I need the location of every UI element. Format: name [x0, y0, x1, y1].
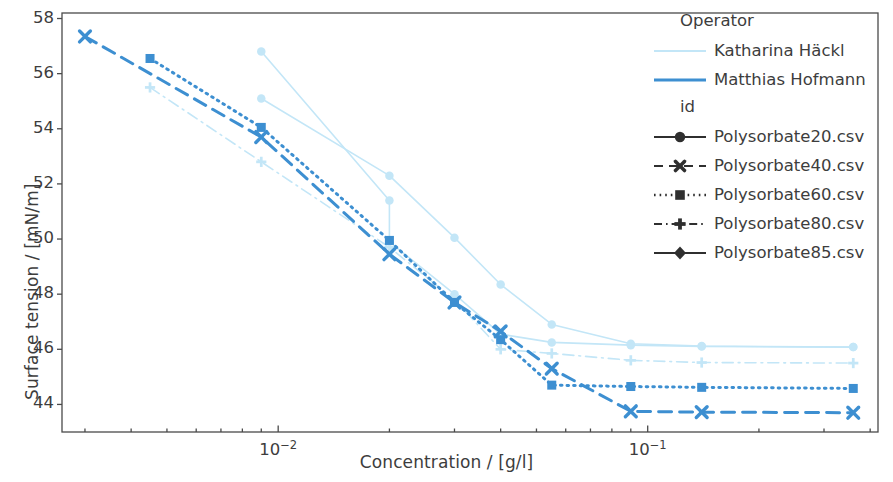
legend-key-polysorbate20: [652, 127, 708, 147]
series-marker-1: [257, 94, 266, 103]
series-marker-2: [697, 357, 707, 367]
series-marker-4: [146, 54, 155, 63]
x-axis-label: Concentration / [g/l]: [0, 452, 893, 472]
series-marker-1: [548, 320, 557, 329]
legend-label-polysorbate60: Polysorbate60.csv: [708, 185, 864, 204]
y-tick-label: 44: [14, 393, 54, 412]
series-marker-3: [625, 406, 636, 417]
legend-label-polysorbate85: Polysorbate85.csv: [708, 243, 864, 262]
series-marker-2: [848, 358, 858, 368]
legend-key-polysorbate85: [652, 243, 708, 263]
legend-key-matthias-hofmann: [652, 70, 708, 90]
series-marker-0: [385, 196, 394, 205]
legend-label-katharina-hackl: Katharina Häckl: [708, 41, 845, 60]
series-marker-4: [496, 335, 505, 344]
series-marker-3: [80, 31, 91, 42]
legend-key-katharina-hackl: [652, 41, 708, 61]
series-marker-4: [547, 381, 556, 390]
chart-legend: Operator Katharina Häckl Matthias Hofman…: [652, 8, 888, 267]
legend-label-matthias-hofmann: Matthias Hofmann: [708, 70, 866, 89]
y-tick-label: 52: [14, 173, 54, 192]
legend-item-polysorbate60[interactable]: Polysorbate60.csv: [652, 180, 888, 209]
y-tick-label: 50: [14, 228, 54, 247]
legend-label-polysorbate80: Polysorbate80.csv: [708, 214, 864, 233]
series-marker-2: [547, 348, 557, 358]
series-marker-3: [256, 132, 267, 143]
series-marker-4: [257, 123, 266, 132]
legend-item-polysorbate20[interactable]: Polysorbate20.csv: [652, 122, 888, 151]
series-marker-1: [627, 340, 636, 349]
series-marker-1: [697, 342, 706, 351]
y-tick-label: 46: [14, 338, 54, 357]
legend-item-polysorbate80[interactable]: Polysorbate80.csv: [652, 209, 888, 238]
series-marker-0: [257, 47, 266, 56]
chart-figure: Surface tension / [mN/m] Concentration /…: [0, 0, 893, 482]
y-tick-label: 56: [14, 63, 54, 82]
legend-label-polysorbate40: Polysorbate40.csv: [708, 156, 864, 175]
legend-item-katharina-hackl[interactable]: Katharina Häckl: [652, 36, 888, 65]
y-tick-label: 54: [14, 118, 54, 137]
series-marker-2: [256, 157, 266, 167]
legend-label-polysorbate20: Polysorbate20.csv: [708, 127, 864, 146]
series-marker-4: [697, 383, 706, 392]
series-marker-4: [450, 298, 459, 307]
legend-item-matthias-hofmann[interactable]: Matthias Hofmann: [652, 65, 888, 94]
legend-item-polysorbate40[interactable]: Polysorbate40.csv: [652, 151, 888, 180]
y-tick-label: 48: [14, 283, 54, 302]
legend-item-polysorbate85[interactable]: Polysorbate85.csv: [652, 238, 888, 267]
series-marker-4: [385, 236, 394, 245]
series-marker-1: [496, 280, 505, 289]
y-tick-label: 58: [14, 8, 54, 27]
legend-key-polysorbate40: [652, 156, 708, 176]
series-marker-1: [849, 343, 858, 352]
series-marker-1: [450, 233, 459, 242]
legend-heading-operator: Operator: [652, 8, 888, 34]
series-marker-2: [626, 355, 636, 365]
legend-key-polysorbate80: [652, 214, 708, 234]
series-marker-1: [385, 171, 394, 180]
x-tick-label: 10−1: [608, 440, 688, 459]
series-marker-4: [626, 382, 635, 391]
legend-heading-id: id: [652, 94, 888, 120]
legend-key-polysorbate60: [652, 185, 708, 205]
x-tick-label: 10−2: [238, 440, 318, 459]
series-marker-4: [849, 384, 858, 393]
series-marker-0: [548, 338, 557, 347]
series-marker-3: [546, 363, 557, 374]
series-marker-2: [145, 82, 155, 92]
